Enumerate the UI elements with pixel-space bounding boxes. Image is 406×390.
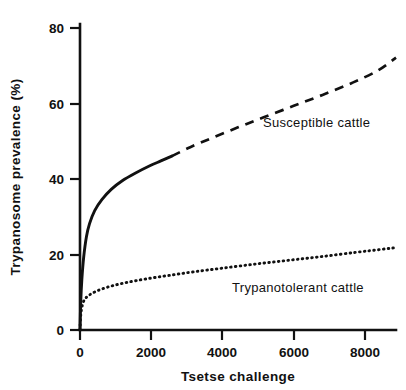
chart-figure: 80 60 40 20 0 0 2000 4000 6000 8000 [0,0,406,390]
chart-svg: 80 60 40 20 0 0 2000 4000 6000 8000 [0,0,406,390]
x-tick-label-0: 0 [76,345,84,360]
x-tick-label-8000: 8000 [350,345,380,360]
series-label-susceptible: Susceptible cattle [263,115,370,130]
x-tick-labels-group: 0 2000 4000 6000 8000 [76,345,380,360]
x-axis-title: Tsetse challenge [181,369,295,384]
series-label-trypanotolerant: Trypanotolerant cattle [232,280,364,295]
y-tick-label-0: 0 [56,323,64,338]
y-tick-label-40: 40 [49,172,64,187]
series-susceptible-dashed-segment [172,58,396,157]
x-tick-label-6000: 6000 [279,345,309,360]
y-axis-title: Trypanosome prevalence (%) [8,78,23,275]
x-tick-label-2000: 2000 [136,345,166,360]
x-tick-label-4000: 4000 [207,345,237,360]
series-susceptible-solid-segment [80,156,172,330]
y-tick-label-20: 20 [49,248,64,263]
y-tick-labels-group: 80 60 40 20 0 [49,21,64,338]
y-tick-label-60: 60 [49,97,64,112]
y-ticks-group [70,28,80,330]
y-tick-label-80: 80 [49,21,64,36]
x-ticks-group [80,330,365,340]
